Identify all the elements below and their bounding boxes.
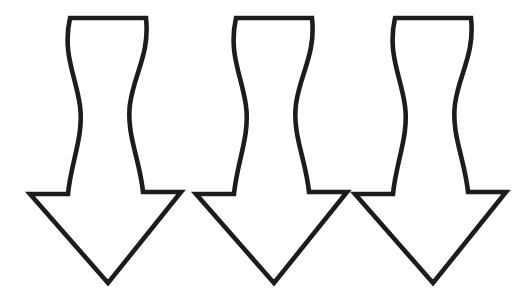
image-canvas	[0, 0, 528, 298]
wavy-down-arrow-row	[0, 0, 528, 298]
